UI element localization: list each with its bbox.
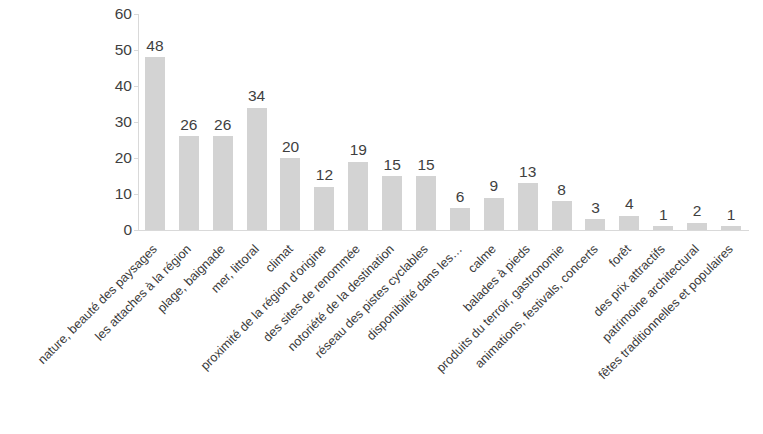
x-axis-category-label: proximité de la région d'origine <box>37 242 330 434</box>
bar[interactable] <box>653 226 673 230</box>
bar-value-label: 1 <box>706 207 756 223</box>
bar[interactable] <box>247 108 267 230</box>
bar-chart: 0102030405060 48262634201219151569138341… <box>0 0 763 434</box>
bar-slot: 4 <box>612 14 646 230</box>
y-axis-tick-label: 10 <box>100 186 132 202</box>
x-axis-category-label: climat <box>3 242 296 434</box>
bar-slot: 2 <box>680 14 714 230</box>
bar-slot: 6 <box>443 14 477 230</box>
bar[interactable] <box>145 57 165 230</box>
bar-slot: 20 <box>274 14 308 230</box>
bar-slot: 26 <box>206 14 240 230</box>
y-axis-tick-label: 40 <box>100 78 132 94</box>
bar[interactable] <box>518 183 538 230</box>
x-axis-category-label: forêt <box>342 242 635 434</box>
y-axis-tick-mark <box>134 158 138 159</box>
bar-slot: 1 <box>646 14 680 230</box>
bar[interactable] <box>348 162 368 230</box>
bar[interactable] <box>450 208 470 230</box>
bar[interactable] <box>179 136 199 230</box>
y-axis-tick-mark <box>134 50 138 51</box>
x-axis-category-label: réseau des pistes cyclables <box>138 242 431 434</box>
x-axis-category-label: disponibilité dans les… <box>172 242 465 434</box>
y-axis-tick-label: 0 <box>100 222 132 238</box>
y-axis-tick-mark <box>134 194 138 195</box>
bar[interactable] <box>416 176 436 230</box>
x-axis-category-label: des prix attractifs <box>375 242 668 434</box>
y-axis-tick-mark <box>134 14 138 15</box>
y-axis-tick-label: 50 <box>100 42 132 58</box>
y-axis-tick-label: 30 <box>100 114 132 130</box>
bar-slot: 19 <box>341 14 375 230</box>
y-axis-tick-mark <box>134 86 138 87</box>
bar[interactable] <box>484 198 504 230</box>
bar[interactable] <box>314 187 334 230</box>
bar[interactable] <box>213 136 233 230</box>
bar[interactable] <box>687 223 707 230</box>
bar[interactable] <box>552 201 572 230</box>
bar-slot: 1 <box>714 14 748 230</box>
bar-slot: 13 <box>511 14 545 230</box>
bar-slot: 34 <box>240 14 274 230</box>
y-axis-tick-label: 60 <box>100 6 132 22</box>
bar-slot: 12 <box>307 14 341 230</box>
x-axis-category-label: balades à pieds <box>240 242 533 434</box>
bar-slot: 8 <box>545 14 579 230</box>
x-axis-category-label: calme <box>206 242 499 434</box>
y-axis-tick-mark <box>134 122 138 123</box>
x-axis-category-label: animations, festivals, concerts <box>308 242 601 434</box>
y-axis-tick-label: 20 <box>100 150 132 166</box>
bar[interactable] <box>382 176 402 230</box>
bar[interactable] <box>280 158 300 230</box>
bar[interactable] <box>585 219 605 230</box>
y-axis-tick-mark <box>134 230 138 231</box>
bar[interactable] <box>619 216 639 230</box>
plot-area: 4826263420121915156913834121 <box>138 14 748 230</box>
x-axis-category-label: patrimoine architectural <box>409 242 702 434</box>
bar-slot: 15 <box>375 14 409 230</box>
bar-slot: 9 <box>477 14 511 230</box>
x-axis-category-label: fêtes traditionnelles et populaires <box>443 242 736 434</box>
x-axis-line <box>138 230 749 231</box>
x-axis-category-label: produits du terroir, gastronomie <box>274 242 567 434</box>
x-axis-category-label: notoriété de la destination <box>104 242 397 434</box>
bar[interactable] <box>721 226 741 230</box>
